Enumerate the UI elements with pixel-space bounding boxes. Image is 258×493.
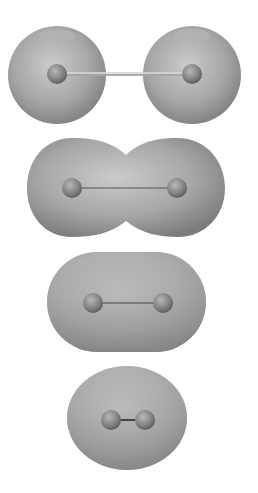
stage-overlapping-atoms — [27, 138, 225, 237]
nucleus-right — [153, 293, 173, 313]
nucleus-left — [62, 178, 82, 198]
nucleus-right — [167, 178, 187, 198]
nucleus-right — [135, 410, 155, 430]
stage-merged-capsule — [47, 252, 206, 352]
nucleus-left — [101, 410, 121, 430]
nucleus-left — [83, 293, 103, 313]
nucleus-left — [47, 64, 67, 84]
stage-bonded-molecule — [67, 366, 187, 470]
nucleus-right — [182, 64, 202, 84]
electron-density-diagram — [0, 0, 258, 493]
stage-separated-atoms — [8, 26, 241, 124]
